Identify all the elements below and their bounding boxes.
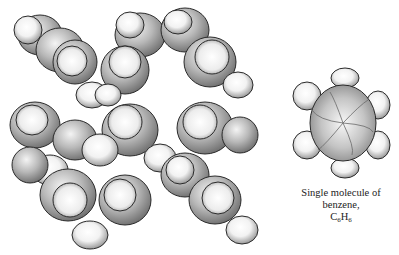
caption-line-2: benzene, <box>285 199 397 211</box>
molecule <box>14 15 108 108</box>
molecule <box>161 8 253 98</box>
molecule <box>161 153 258 244</box>
figure-caption: Single molecule of benzene, C6H6 <box>285 187 397 226</box>
single-benzene-molecule <box>293 68 390 178</box>
chemical-formula: C6H6 <box>285 211 397 226</box>
crystal-lattice <box>10 8 258 249</box>
molecule <box>95 12 165 106</box>
caption-line-1: Single molecule of <box>285 187 397 199</box>
molecule <box>99 175 151 225</box>
